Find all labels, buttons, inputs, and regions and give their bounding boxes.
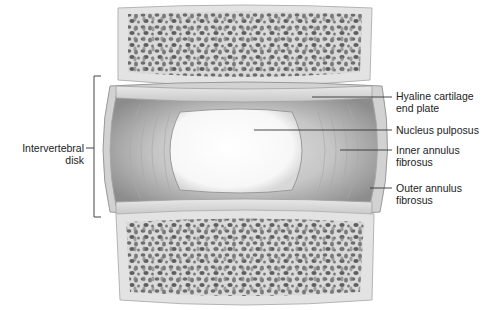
- label-outer-annulus: Outer annulus fibrosus: [396, 182, 462, 206]
- label-line: Hyaline cartilage: [396, 90, 474, 102]
- label-line: Inner annulus: [396, 144, 460, 156]
- upper-vertebral-body: [118, 5, 372, 86]
- label-line: fibrosus: [396, 156, 460, 168]
- label-line: Nucleus pulposus: [396, 124, 479, 136]
- disk-bracket: [86, 76, 101, 217]
- label-line: end plate: [396, 102, 474, 114]
- label-line: fibrosus: [396, 194, 462, 206]
- label-intervertebral-disk: Intervertebral disk: [10, 142, 84, 166]
- label-line: disk: [10, 154, 84, 166]
- label-line: Outer annulus: [396, 182, 462, 194]
- lower-vertebral-body: [116, 210, 374, 305]
- label-hyaline-cartilage: Hyaline cartilage end plate: [396, 90, 474, 114]
- nucleus-pulposus: [170, 109, 302, 193]
- label-inner-annulus: Inner annulus fibrosus: [396, 144, 460, 168]
- label-nucleus-pulposus: Nucleus pulposus: [396, 124, 479, 136]
- label-line: Intervertebral: [10, 142, 84, 154]
